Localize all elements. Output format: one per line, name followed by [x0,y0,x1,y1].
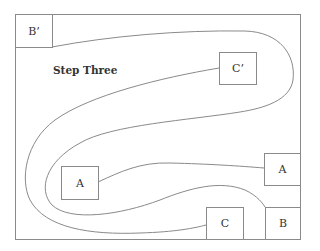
step-title: Step Three [53,64,117,76]
path-cprime-to-c [25,68,219,233]
node-label: B’ [28,25,40,38]
path-a-to-a [98,163,264,182]
node-b-prime: B’ [15,14,53,48]
node-c-prime: C’ [219,52,257,85]
node-label: A [76,177,84,190]
node-a-left: A [61,166,99,200]
node-a-right: A [264,153,301,186]
node-label: C’ [232,62,244,75]
node-label: C [221,217,229,230]
node-label: B [279,217,287,230]
node-c: C [206,207,244,240]
node-label: A [279,163,287,176]
node-b: B [265,207,301,240]
